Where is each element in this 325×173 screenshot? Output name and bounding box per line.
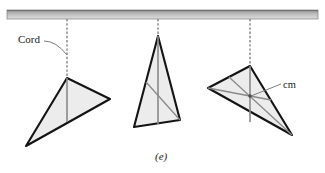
ceiling-bar xyxy=(7,10,318,19)
center-of-mass-label: cm xyxy=(283,80,296,91)
ceiling-group xyxy=(7,10,318,19)
center-of-mass-figure: Cord cm (e) xyxy=(0,0,325,173)
plate-1-outline xyxy=(26,78,110,146)
triangular-plate-2 xyxy=(134,36,180,127)
plate-2-outline xyxy=(134,36,180,127)
triangular-plate-1 xyxy=(26,78,110,146)
figure-caption: (e) xyxy=(155,151,167,162)
cord-leader-line xyxy=(44,41,67,55)
figure-canvas xyxy=(0,0,325,173)
cord-label: Cord xyxy=(18,34,40,45)
triangular-plate-3 xyxy=(208,66,292,135)
